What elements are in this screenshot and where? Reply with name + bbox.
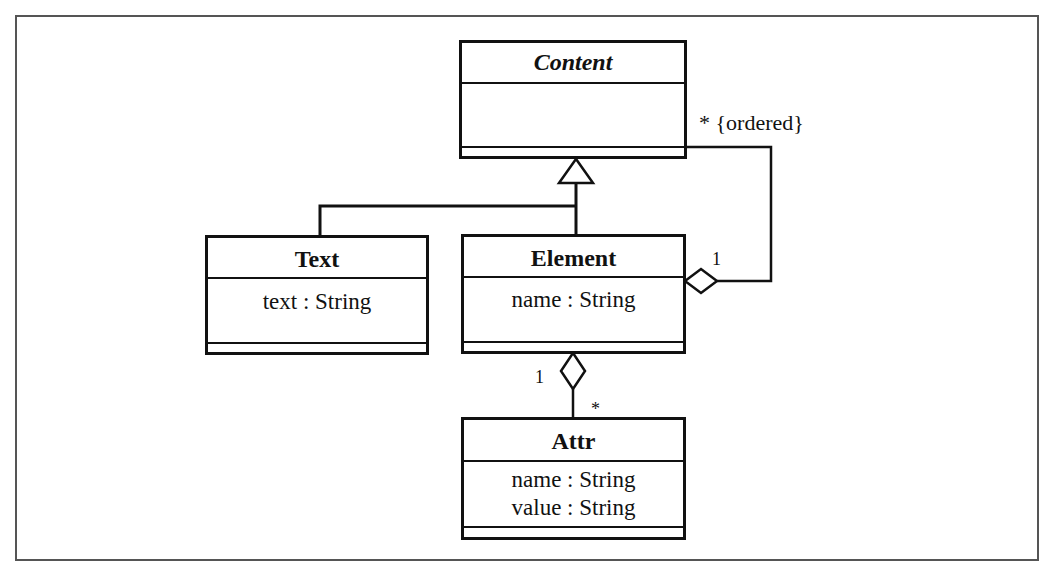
class-text-name-divider	[208, 277, 426, 279]
multiplicity-element-attr-part: *	[591, 397, 600, 421]
attribute: name : String	[464, 466, 683, 494]
attribute: value : String	[464, 494, 683, 522]
class-content-attr-divider	[462, 146, 684, 148]
class-content-name-divider	[462, 82, 684, 84]
attribute: text : String	[208, 288, 426, 316]
multiplicity-content-children: * {ordered}	[699, 111, 804, 135]
attribute: name : String	[464, 286, 683, 314]
class-attr: Attr name : String value : String	[461, 417, 686, 540]
class-text-attr-divider	[208, 342, 426, 344]
class-text-attributes: text : String	[208, 288, 426, 316]
class-attr-attr-divider	[464, 526, 683, 528]
class-text-name: Text	[208, 245, 426, 273]
class-element-attributes: name : String	[464, 286, 683, 314]
aggregation-children-connector	[685, 147, 771, 281]
class-text: Text text : String	[205, 235, 429, 355]
class-element-attr-divider	[464, 341, 683, 343]
class-attr-attributes: name : String value : String	[464, 466, 683, 522]
multiplicity-element-parent: 1	[712, 247, 721, 271]
class-content: Content	[459, 40, 687, 159]
generalization-connector	[320, 183, 576, 237]
class-attr-name: Attr	[464, 427, 683, 455]
aggregation-diamond-icon	[685, 269, 717, 293]
generalization-triangle-icon	[559, 159, 593, 183]
class-attr-name-divider	[464, 460, 683, 462]
aggregation-attr-diamond-icon	[561, 353, 585, 389]
class-element-name-divider	[464, 276, 683, 278]
class-element: Element name : String	[461, 234, 686, 354]
multiplicity-element-attr-whole: 1	[535, 365, 544, 389]
class-element-name: Element	[464, 244, 683, 272]
class-content-name: Content	[462, 48, 684, 76]
